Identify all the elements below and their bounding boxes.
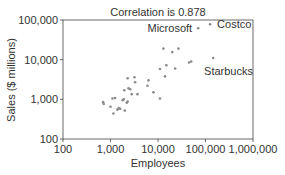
x-tick-label: 100,000 xyxy=(186,143,226,155)
data-point xyxy=(146,84,149,87)
data-point xyxy=(152,91,155,94)
data-point xyxy=(133,76,136,79)
data-point xyxy=(126,77,129,80)
x-tick-label: 1,000 xyxy=(97,143,125,155)
data-point xyxy=(129,88,132,91)
x-tick-label: 10,000 xyxy=(141,143,175,155)
data-point xyxy=(102,103,105,106)
data-point xyxy=(177,47,180,50)
data-point xyxy=(136,93,139,96)
data-point xyxy=(171,51,174,54)
y-axis-label: Sales ($ millions) xyxy=(5,38,17,122)
data-point xyxy=(164,75,167,78)
data-point xyxy=(162,47,165,50)
chart-svg: Correlation is 0.878 1001,00010,000100,0… xyxy=(0,0,285,175)
chart-title: Correlation is 0.878 xyxy=(110,6,205,18)
data-point xyxy=(197,27,200,30)
data-point xyxy=(190,60,193,63)
data-point xyxy=(165,64,168,67)
point-label: Costco xyxy=(217,18,251,30)
x-tick-label: 1,000,000 xyxy=(229,143,278,155)
data-point xyxy=(126,100,129,103)
data-point xyxy=(112,112,115,115)
y-tick-label: 100,000 xyxy=(18,14,58,26)
data-point xyxy=(122,98,125,101)
y-tick-label: 10,000 xyxy=(24,54,58,66)
data-point xyxy=(134,81,137,84)
point-label: Starbucks xyxy=(204,65,253,77)
data-point xyxy=(119,107,122,110)
data-point xyxy=(123,89,126,92)
data-point xyxy=(174,67,177,70)
x-axis: 1001,00010,000100,0001,000,000 xyxy=(54,139,278,155)
y-tick-label: 1,000 xyxy=(30,93,58,105)
x-axis-label: Employees xyxy=(131,157,186,169)
data-points xyxy=(102,23,215,115)
point-label: Microsoft xyxy=(148,22,193,34)
data-point xyxy=(130,93,133,96)
data-point xyxy=(123,109,126,112)
scatter-chart: Correlation is 0.878 1001,00010,000100,0… xyxy=(0,0,285,175)
x-tick-label: 100 xyxy=(54,143,72,155)
data-point xyxy=(159,68,162,71)
y-axis: 1001,00010,000100,000 xyxy=(18,14,63,145)
data-point xyxy=(147,79,150,82)
data-point xyxy=(159,97,162,100)
data-point xyxy=(209,23,212,26)
data-point xyxy=(114,97,117,100)
plot-area xyxy=(63,20,253,139)
data-point xyxy=(212,57,215,60)
data-point xyxy=(111,97,114,100)
data-point xyxy=(109,105,112,108)
